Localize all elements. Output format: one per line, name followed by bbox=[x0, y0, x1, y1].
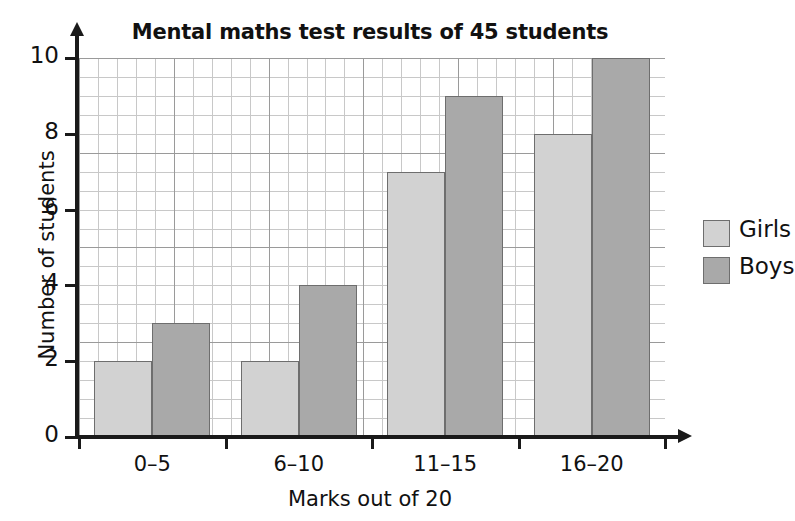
bar-boys-1 bbox=[299, 285, 357, 437]
bar-boys-0 bbox=[152, 323, 210, 437]
x-axis-tick bbox=[371, 435, 374, 449]
x-axis-tick bbox=[78, 435, 81, 449]
chart-title: Mental maths test results of 45 students bbox=[100, 20, 640, 44]
x-axis-tick bbox=[664, 435, 667, 449]
x-axis-tick-label: 16–20 bbox=[532, 452, 652, 476]
bar-girls-3 bbox=[534, 134, 592, 437]
y-axis-tick bbox=[65, 360, 79, 363]
x-axis-tick bbox=[518, 435, 521, 449]
x-axis-title: Marks out of 20 bbox=[180, 487, 560, 511]
x-axis-tick bbox=[225, 435, 228, 449]
legend-label-girls: Girls bbox=[739, 216, 791, 242]
bar-girls-1 bbox=[241, 361, 299, 437]
bar-girls-0 bbox=[94, 361, 152, 437]
plot-area bbox=[79, 58, 665, 437]
y-axis-line bbox=[75, 33, 79, 439]
x-axis-line bbox=[75, 435, 679, 439]
y-axis-tick bbox=[65, 436, 79, 439]
x-axis-tick-label: 6–10 bbox=[239, 452, 359, 476]
bar-girls-2 bbox=[387, 172, 445, 437]
y-axis-tick-label: 10 bbox=[19, 42, 59, 68]
bar-chart-figure: Mental maths test results of 45 students… bbox=[0, 0, 795, 521]
y-axis-tick bbox=[65, 284, 79, 287]
x-axis-arrowhead bbox=[678, 429, 692, 443]
bar-boys-2 bbox=[445, 96, 503, 437]
legend-swatch-boys bbox=[703, 257, 730, 284]
y-axis-tick bbox=[65, 209, 79, 212]
x-axis-tick-label: 0–5 bbox=[92, 452, 212, 476]
legend-swatch-girls bbox=[703, 220, 730, 247]
y-axis-title: Number of students bbox=[35, 135, 59, 375]
y-axis-tick bbox=[65, 57, 79, 60]
y-axis-tick-label: 0 bbox=[19, 421, 59, 447]
x-axis-tick-label: 11–15 bbox=[385, 452, 505, 476]
y-axis-arrowhead bbox=[70, 22, 84, 36]
y-axis-tick bbox=[65, 133, 79, 136]
legend-label-boys: Boys bbox=[739, 253, 794, 279]
bar-boys-3 bbox=[592, 58, 650, 437]
